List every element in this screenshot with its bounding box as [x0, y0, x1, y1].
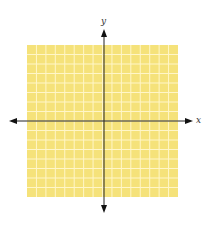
y-axis-label: y — [101, 17, 106, 26]
coordinate-plane: y x — [0, 0, 212, 226]
x-axis-label: x — [196, 116, 201, 125]
coordinate-grid — [0, 0, 212, 226]
y-axis-arrow-up-icon — [101, 29, 107, 37]
y-axis-arrow-down-icon — [101, 205, 107, 213]
x-axis-arrow-left-icon — [9, 118, 17, 124]
x-axis-arrow-right-icon — [185, 118, 193, 124]
